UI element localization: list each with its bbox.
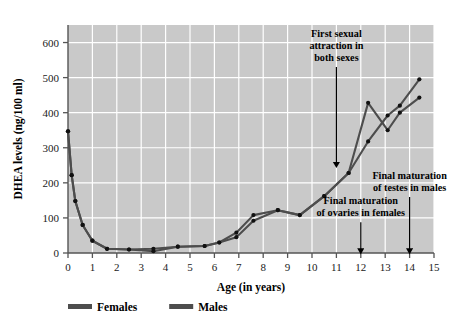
data-point	[203, 244, 207, 248]
data-point	[176, 245, 180, 249]
data-point	[90, 239, 94, 243]
data-point	[81, 223, 85, 227]
data-point	[105, 247, 109, 251]
annotation-line: both sexes	[314, 52, 358, 63]
x-tick-label: 13	[380, 261, 392, 273]
data-point	[251, 213, 255, 217]
data-point	[386, 128, 390, 132]
y-tick-label: 600	[43, 37, 60, 49]
data-point	[217, 240, 221, 244]
annotation-line: of testes in males	[373, 182, 446, 193]
x-tick-label: 11	[331, 261, 342, 273]
x-tick-label: 7	[236, 261, 242, 273]
x-tick-label: 1	[90, 261, 96, 273]
data-point	[70, 173, 74, 177]
data-point	[417, 77, 421, 81]
x-tick-label: 6	[212, 261, 218, 273]
x-tick-label: 12	[355, 261, 366, 273]
data-point	[66, 129, 70, 133]
x-tick-label: 0	[65, 261, 71, 273]
y-tick-label: 500	[43, 72, 60, 84]
data-point	[347, 171, 351, 175]
y-tick-label: 300	[43, 142, 60, 154]
data-point	[298, 213, 302, 217]
y-axis-ticks: 0100200300400500600	[43, 37, 69, 259]
x-tick-label: 4	[163, 261, 169, 273]
y-axis-title: DHEA levels (ng/100 ml)	[12, 78, 25, 199]
y-tick-label: 100	[43, 212, 60, 224]
legend-item-females: Females	[68, 301, 138, 313]
annotation-line: First sexual	[311, 28, 362, 39]
annotation-line: attraction in	[309, 40, 363, 51]
data-point	[127, 247, 131, 251]
data-point	[234, 231, 238, 235]
x-tick-label: 14	[404, 261, 416, 273]
data-point	[366, 139, 370, 143]
legend-label: Females	[97, 301, 138, 313]
annotation-line: of ovaries in females	[317, 207, 406, 218]
data-point	[234, 235, 238, 239]
y-tick-label: 0	[54, 247, 60, 259]
x-tick-label: 9	[285, 261, 291, 273]
data-point	[276, 208, 280, 212]
data-point	[386, 113, 390, 117]
dhea-levels-chart-figure: 0100200300400500600 01234567891011121314…	[0, 0, 457, 327]
x-tick-label: 8	[260, 261, 266, 273]
legend-swatch	[169, 304, 193, 309]
x-tick-label: 15	[429, 261, 441, 273]
x-axis-ticks: 0123456789101112131415	[65, 253, 440, 273]
x-axis-title: Age (in years)	[217, 281, 286, 294]
data-point	[151, 247, 155, 251]
legend-label: Males	[198, 301, 228, 313]
x-tick-label: 2	[114, 261, 120, 273]
chart-legend: FemalesMales	[68, 301, 228, 313]
x-tick-label: 10	[307, 261, 319, 273]
annotation-line: Final maturation	[324, 195, 399, 206]
data-point	[398, 104, 402, 108]
data-point	[73, 199, 77, 203]
y-tick-label: 200	[43, 177, 60, 189]
y-tick-label: 400	[43, 107, 60, 119]
chart-svg: 0100200300400500600 01234567891011121314…	[0, 0, 457, 327]
x-tick-label: 5	[187, 261, 193, 273]
legend-item-males: Males	[169, 301, 228, 313]
data-point	[417, 96, 421, 100]
data-point	[251, 219, 255, 223]
data-point	[366, 101, 370, 105]
data-point	[398, 111, 402, 115]
x-tick-label: 3	[138, 261, 144, 273]
annotation-line: Final maturation	[372, 170, 447, 181]
legend-swatch	[68, 304, 92, 309]
